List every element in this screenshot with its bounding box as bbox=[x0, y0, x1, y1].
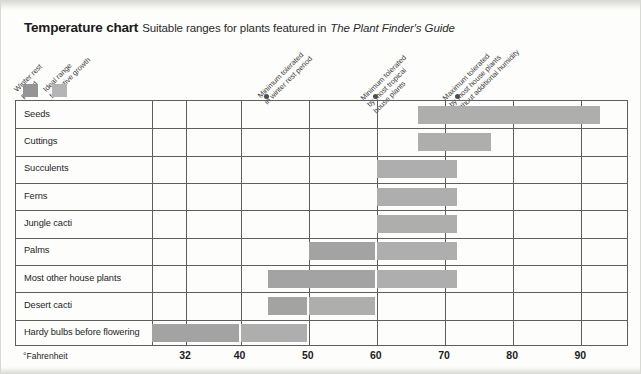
chart-row: Most other house plants bbox=[16, 265, 627, 292]
row-separator-5 bbox=[16, 238, 627, 239]
row-bars-6 bbox=[152, 270, 627, 288]
bar-segment-ideal-6 bbox=[377, 270, 457, 288]
row-bars-0 bbox=[152, 106, 627, 124]
chart-row: Succulents bbox=[16, 156, 627, 183]
chart-plot-area: SeedsCuttingsSucculentsFernsJungle cacti… bbox=[15, 100, 628, 346]
axis-tick-70: 70 bbox=[438, 349, 450, 361]
row-label-3: Ferns bbox=[24, 191, 47, 201]
row-separator-1 bbox=[16, 128, 627, 129]
axis-unit-label: °Fahrenheit bbox=[23, 351, 68, 361]
x-axis: °Fahrenheit 32405060708090 bbox=[15, 347, 628, 369]
row-separator-4 bbox=[16, 210, 627, 211]
row-bars-7 bbox=[152, 297, 627, 315]
chart-row: Cuttings bbox=[16, 128, 627, 155]
axis-tick-90: 90 bbox=[574, 349, 586, 361]
row-bars-3 bbox=[152, 188, 627, 206]
row-bars-4 bbox=[152, 215, 627, 233]
bar-segment-rest-8 bbox=[152, 324, 239, 342]
title-subtitle: Suitable ranges for plants featured in bbox=[142, 22, 326, 34]
row-separator-8 bbox=[16, 320, 627, 321]
bar-segment-ideal-1 bbox=[418, 133, 491, 151]
bar-segment-ideal-3 bbox=[377, 188, 457, 206]
chart-row: Hardy bulbs before flowering bbox=[16, 320, 627, 347]
chart-row: Jungle cacti bbox=[16, 210, 627, 237]
chart-row: Palms bbox=[16, 238, 627, 265]
axis-tick-50: 50 bbox=[302, 349, 314, 361]
row-label-7: Desert cacti bbox=[24, 300, 72, 310]
bar-segment-ideal-7 bbox=[309, 297, 376, 315]
title-main: Temperature chart bbox=[24, 20, 138, 35]
temperature-chart-page: Temperature chartSuitable ranges for pla… bbox=[0, 0, 641, 374]
axis-tick-40: 40 bbox=[234, 349, 246, 361]
axis-tick-32: 32 bbox=[179, 349, 191, 361]
row-label-2: Succulents bbox=[24, 163, 68, 173]
row-label-6: Most other house plants bbox=[24, 273, 121, 283]
bar-segment-ideal-2 bbox=[377, 160, 457, 178]
legend: Winter restperiodIdeal rangefor active g… bbox=[19, 47, 159, 99]
bar-segment-rest-7 bbox=[268, 297, 307, 315]
bar-segment-ideal-5 bbox=[377, 242, 457, 260]
row-separator-6 bbox=[16, 265, 627, 266]
row-label-1: Cuttings bbox=[24, 136, 57, 146]
row-bars-1 bbox=[152, 133, 627, 151]
row-separator-3 bbox=[16, 183, 627, 184]
chart-row: Ferns bbox=[16, 183, 627, 210]
row-separator-7 bbox=[16, 292, 627, 293]
legend-swatch-1 bbox=[52, 84, 67, 97]
bar-segment-ideal-8 bbox=[241, 324, 308, 342]
row-label-4: Jungle cacti bbox=[24, 218, 72, 228]
title-subtitle-italic: The Plant Finder's Guide bbox=[330, 22, 454, 34]
row-label-0: Seeds bbox=[24, 109, 50, 119]
bar-segment-rest-6 bbox=[268, 270, 376, 288]
row-label-8: Hardy bulbs before flowering bbox=[24, 327, 140, 337]
axis-tick-80: 80 bbox=[506, 349, 518, 361]
axis-tick-60: 60 bbox=[370, 349, 382, 361]
row-label-5: Palms bbox=[24, 245, 49, 255]
page-title: Temperature chartSuitable ranges for pla… bbox=[24, 18, 455, 36]
bar-segment-rest-5 bbox=[309, 242, 376, 260]
row-separator-2 bbox=[16, 156, 627, 157]
legend-swatch-0 bbox=[23, 84, 38, 97]
row-bars-2 bbox=[152, 160, 627, 178]
chart-row: Seeds bbox=[16, 101, 627, 128]
row-bars-5 bbox=[152, 242, 627, 260]
row-bars-8 bbox=[152, 324, 627, 342]
chart-row: Desert cacti bbox=[16, 292, 627, 319]
bar-segment-ideal-0 bbox=[418, 106, 600, 124]
bar-segment-ideal-4 bbox=[377, 215, 457, 233]
